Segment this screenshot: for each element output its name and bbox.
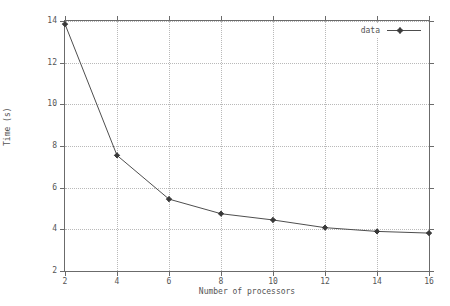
y-tick-mark	[429, 146, 434, 147]
x-tick-label: 10	[268, 278, 278, 286]
data-point-marker	[218, 211, 223, 216]
y-tick-mark	[429, 188, 434, 189]
y-tick-label: 12	[47, 59, 57, 67]
chart-figure: 14 12 10 8 6 4 2 2 4 6 8 10	[0, 0, 450, 306]
y-tick-label: 4	[52, 225, 57, 233]
x-tick-mark	[429, 271, 430, 276]
x-tick-label: 16	[424, 278, 434, 286]
x-tick-label: 4	[115, 278, 120, 286]
y-tick-mark	[429, 21, 434, 22]
x-tick-mark	[65, 271, 66, 276]
x-tick-label: 8	[219, 278, 224, 286]
y-tick-label: 2	[52, 267, 57, 275]
x-tick-mark	[169, 271, 170, 276]
data-point-marker	[426, 231, 431, 236]
data-series-layer	[65, 21, 429, 271]
x-axis-title: Number of processors	[64, 288, 430, 296]
data-point-marker	[374, 229, 379, 234]
plot-area: 14 12 10 8 6 4 2 2 4 6 8 10	[64, 20, 430, 272]
x-tick-mark	[273, 271, 274, 276]
legend: data	[353, 23, 427, 38]
y-tick-mark	[429, 229, 434, 230]
series-markers-data	[62, 22, 431, 236]
y-tick-label: 14	[47, 17, 57, 25]
y-tick-label: 8	[52, 142, 57, 150]
legend-label-data: data	[361, 27, 380, 35]
x-tick-label: 14	[372, 278, 382, 286]
y-tick-mark	[429, 63, 434, 64]
y-tick-mark	[429, 104, 434, 105]
data-point-marker	[62, 22, 67, 27]
x-tick-mark	[221, 271, 222, 276]
x-tick-mark	[377, 271, 378, 276]
x-tick-mark	[325, 271, 326, 276]
x-tick-label: 6	[167, 278, 172, 286]
x-tick-label: 12	[320, 278, 330, 286]
x-tick-mark	[117, 271, 118, 276]
x-tick-label: 2	[63, 278, 68, 286]
y-axis-title: Time (s)	[4, 107, 12, 146]
data-point-marker	[322, 225, 327, 230]
line-with-diamond-marker-icon	[387, 26, 421, 35]
y-tick-label: 6	[52, 184, 57, 192]
y-tick-label: 10	[47, 100, 57, 108]
x-tick-mark	[429, 16, 430, 21]
series-line-data	[65, 24, 429, 233]
data-point-marker	[270, 217, 275, 222]
